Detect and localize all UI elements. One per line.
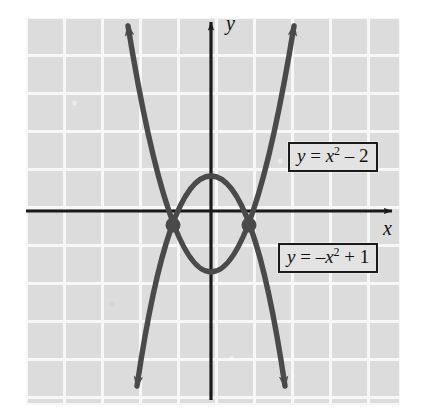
- equation-upper-exponent: 2: [334, 144, 340, 158]
- equation-lower-base: x: [325, 246, 333, 267]
- equation-lower-lhs: y: [287, 246, 295, 267]
- equation-label-upward-parabola: y = x2 – 2: [288, 142, 378, 172]
- equation-lower-exponent: 2: [334, 245, 340, 259]
- intersection-point-left: [166, 218, 181, 233]
- equation-label-downward-parabola: y = –x2 + 1: [278, 243, 378, 273]
- equation-upper-base: x: [326, 145, 334, 166]
- equation-lower-sign: –: [316, 246, 326, 267]
- intersection-point-right: [242, 218, 257, 233]
- x-axis-label: x: [383, 217, 392, 240]
- plot-canvas: [0, 0, 423, 418]
- y-axis-label: y: [226, 12, 235, 35]
- equation-lower-tail: + 1: [344, 246, 369, 267]
- curve-downward-parabola-left: [137, 176, 211, 386]
- curve-downward-parabola-right: [211, 176, 285, 386]
- equation-upper-tail: – 2: [345, 145, 369, 166]
- equation-upper-equals: =: [310, 145, 321, 166]
- equation-upper-lhs: y: [297, 145, 305, 166]
- equation-lower-equals: =: [300, 246, 311, 267]
- graph-figure: y x y = x2 – 2 y = –x2 + 1: [0, 0, 423, 418]
